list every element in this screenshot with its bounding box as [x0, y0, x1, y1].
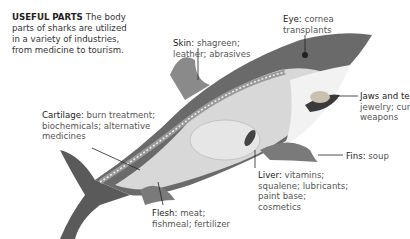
intro-text: USEFUL PARTSThe body parts of sharks are…: [12, 12, 137, 56]
label-jaws: Jaws and te jewelry; cur weapons: [360, 91, 410, 123]
label-skin: Skin: shagreen; leather; abrasives: [173, 38, 250, 59]
label-cartilage: Cartilage: burn treatment; biochemicals;…: [42, 110, 155, 142]
intro-heading: USEFUL PARTS: [12, 12, 83, 22]
jaw-muscle: [310, 91, 330, 103]
label-fins: Fins: soup: [346, 151, 389, 162]
label-eye: Eye: cornea transplants: [283, 14, 334, 35]
label-flesh: Flesh: meat; fishmeal; fertilizer: [152, 208, 230, 229]
label-liver: Liver: vitamins; squalene; lubricants; p…: [258, 170, 348, 212]
